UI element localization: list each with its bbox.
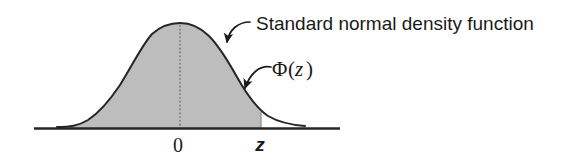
axis-label-zero: 0 [173, 134, 183, 156]
figure-canvas: Standard normal density function Φ ( z )… [0, 0, 570, 166]
cdf-label-phi: Φ [272, 57, 287, 81]
axis-label-z: z [254, 134, 265, 155]
cdf-label-group: Φ ( z ) [272, 57, 313, 81]
cdf-label-variable: z [294, 57, 303, 81]
normal-distribution-figure: Standard normal density function Φ ( z )… [0, 0, 570, 166]
density-function-label: Standard normal density function [256, 13, 534, 34]
cdf-label-open-paren: ( [288, 57, 295, 81]
cdf-label-close-paren: ) [306, 57, 313, 81]
title-annotation-arrow [227, 22, 250, 42]
shaded-cdf-region [57, 23, 261, 128]
cdf-annotation-arrow [245, 67, 271, 88]
